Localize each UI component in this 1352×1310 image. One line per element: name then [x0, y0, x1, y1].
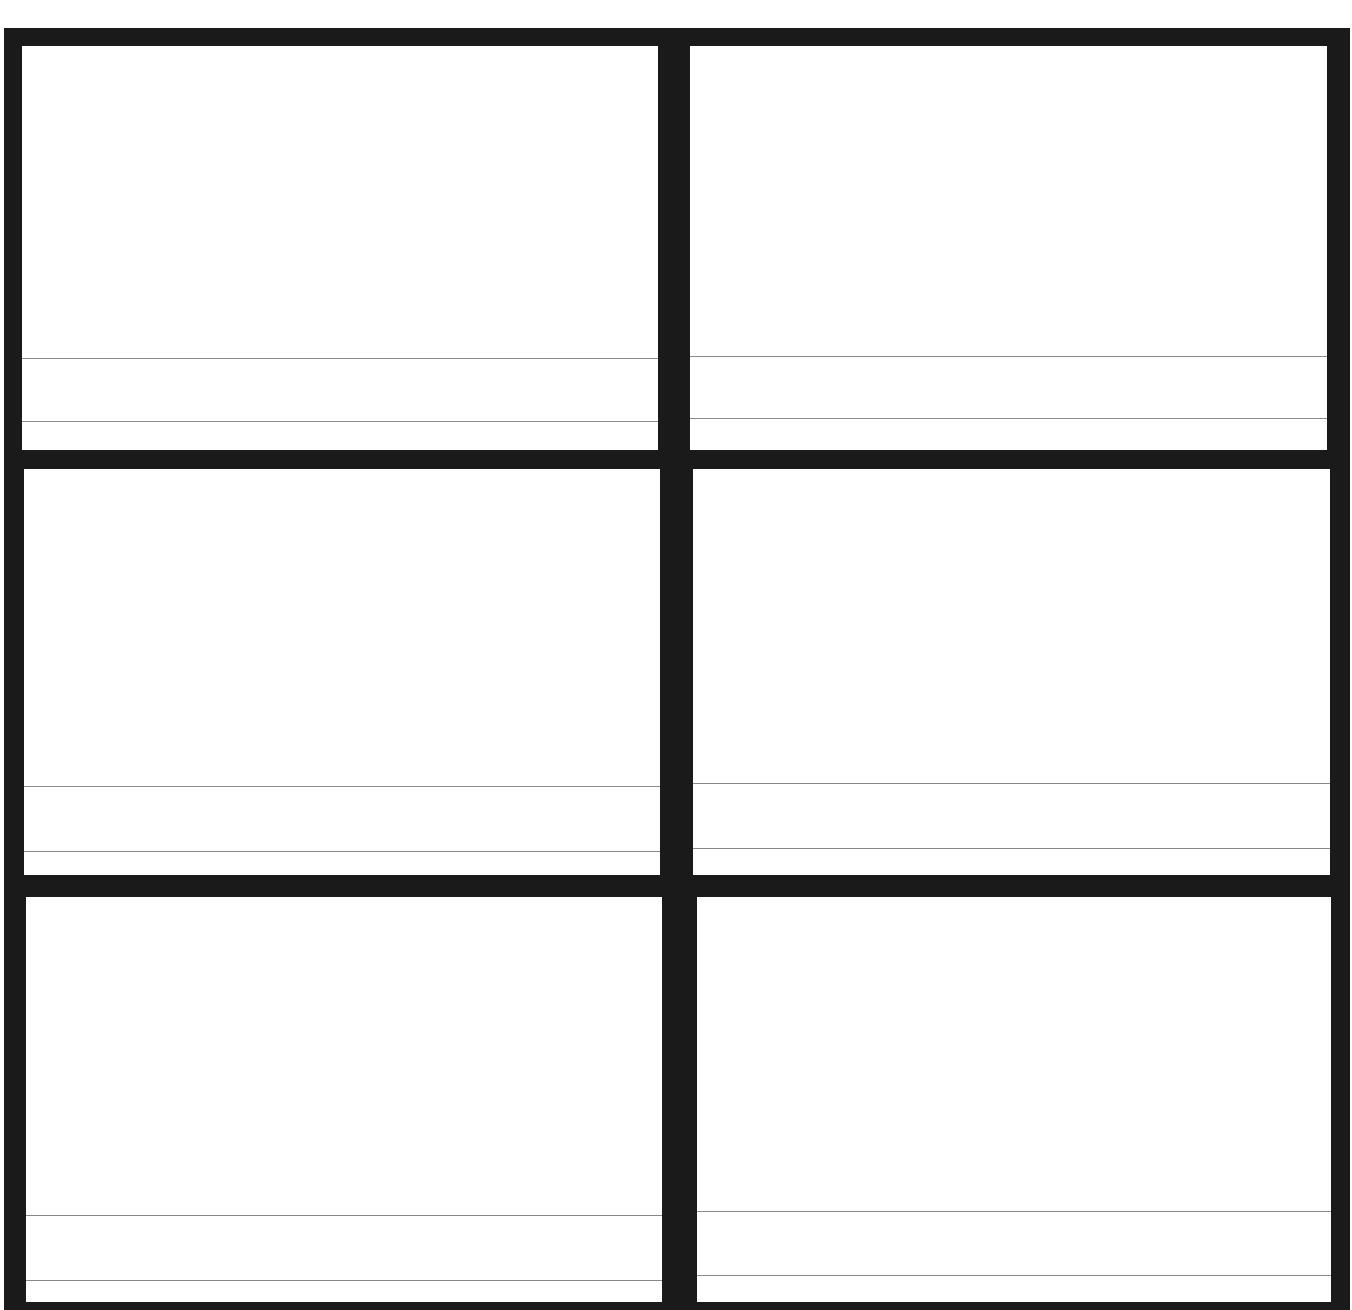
caption-line	[693, 783, 1330, 784]
caption-line	[24, 786, 660, 787]
panel-3-2	[697, 897, 1331, 1302]
panel-1-2	[690, 46, 1327, 450]
storyboard-sheet	[0, 0, 1352, 1310]
caption-line	[22, 421, 658, 422]
caption-line	[690, 418, 1327, 419]
panel-2-1	[24, 469, 660, 875]
caption-line	[24, 851, 660, 852]
panel-3-1	[26, 897, 662, 1302]
caption-line	[697, 1211, 1331, 1212]
caption-line	[690, 356, 1327, 357]
caption-line	[693, 848, 1330, 849]
caption-line	[26, 1280, 662, 1281]
caption-line	[22, 358, 658, 359]
caption-line	[26, 1215, 662, 1216]
panel-2-2	[693, 469, 1330, 875]
panel-1-1	[22, 46, 658, 450]
caption-line	[697, 1275, 1331, 1276]
